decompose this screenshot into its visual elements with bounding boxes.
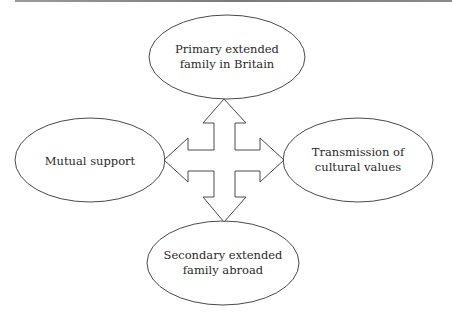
node-label-line: cultural values: [312, 160, 405, 175]
node-label-line: Secondary extended: [164, 248, 283, 263]
node-label-line: family in Britain: [175, 57, 279, 72]
four-way-arrow-icon: [164, 99, 284, 222]
node-mutual-support: Mutual support: [45, 154, 135, 169]
node-label-line: family abroad: [164, 263, 283, 278]
node-secondary-extended-family: Secondary extended family abroad: [164, 248, 283, 278]
node-label-line: Mutual support: [45, 154, 135, 169]
node-transmission-of-cultural-values: Transmission of cultural values: [312, 145, 405, 175]
node-label-line: Primary extended: [175, 42, 279, 57]
node-primary-extended-family: Primary extended family in Britain: [175, 42, 279, 72]
node-label-line: Transmission of: [312, 145, 405, 160]
